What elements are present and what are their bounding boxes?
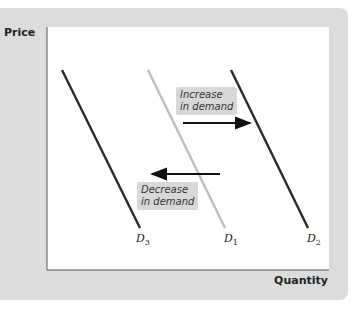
y-axis-label: Price	[4, 26, 35, 39]
curve-label-d3-sub: 3	[145, 238, 150, 247]
curve-label-d1-sub: 1	[233, 238, 238, 247]
curve-label-d2-sub: 2	[316, 238, 321, 247]
increase-note: Increase in demand	[176, 87, 237, 115]
decrease-note-line2: in demand	[141, 196, 194, 208]
demand-shift-chart	[0, 0, 362, 310]
curve-d3	[62, 70, 140, 228]
curve-label-d2-main: D	[307, 232, 316, 245]
curve-label-d1-main: D	[224, 232, 233, 245]
curve-label-d3: D3	[136, 232, 150, 247]
curve-label-d3-main: D	[136, 232, 145, 245]
increase-note-line1: Increase	[180, 89, 233, 101]
decrease-note-line1: Decrease	[141, 184, 194, 196]
curve-d2	[231, 70, 308, 228]
curve-label-d2: D2	[307, 232, 321, 247]
x-axis-label: Quantity	[274, 274, 328, 287]
decrease-note: Decrease in demand	[137, 182, 198, 210]
curve-label-d1: D1	[224, 232, 238, 247]
increase-note-line2: in demand	[180, 101, 233, 113]
